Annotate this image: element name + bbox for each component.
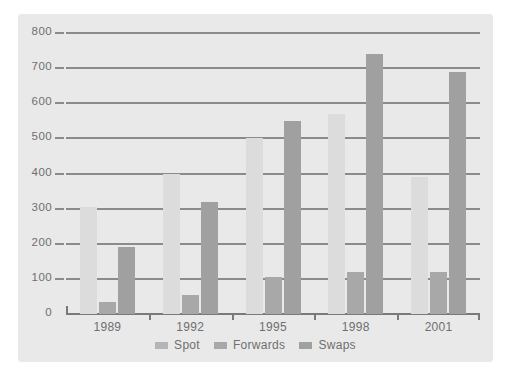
chart-legend: SpotForwardsSwaps [0, 338, 511, 352]
y-tick-mark [55, 102, 64, 104]
bar-swaps-1992 [201, 202, 218, 314]
legend-swatch-swaps [299, 342, 312, 349]
bar-swaps-2001 [449, 72, 466, 314]
legend-item-forwards[interactable]: Forwards [214, 338, 285, 352]
y-tick-mark [55, 208, 64, 210]
legend-swatch-spot [155, 342, 168, 349]
y-tick-mark [55, 173, 64, 175]
bar-forwards-1998 [347, 272, 364, 314]
x-tick-mark [314, 314, 316, 320]
bar-spot-1992 [163, 174, 180, 315]
bar-spot-2001 [411, 177, 428, 314]
y-tick-label: 300 [8, 201, 52, 213]
y-tick-label: 400 [8, 166, 52, 178]
y-tick-mark [55, 278, 64, 280]
x-tick-label-1998: 1998 [326, 320, 386, 334]
gridline [66, 32, 480, 34]
x-tick-label-1995: 1995 [243, 320, 303, 334]
bar-spot-1989 [80, 207, 97, 314]
bar-chart: 0100200300400500600700800 19891992199519… [0, 0, 511, 375]
legend-label-swaps: Swaps [318, 338, 356, 352]
y-tick-label: 800 [8, 25, 52, 37]
chart-screenshot: 0100200300400500600700800 19891992199519… [0, 0, 511, 375]
bar-spot-1998 [328, 114, 345, 314]
gridline [66, 173, 480, 175]
y-tick-label: 100 [8, 271, 52, 283]
y-tick-label: 600 [8, 95, 52, 107]
x-tick-label-1992: 1992 [160, 320, 220, 334]
legend-item-spot[interactable]: Spot [155, 338, 200, 352]
y-axis-stub [66, 306, 68, 315]
x-tick-mark [397, 314, 399, 320]
gridline [66, 102, 480, 104]
bar-forwards-2001 [430, 272, 447, 314]
legend-label-forwards: Forwards [233, 338, 285, 352]
bar-swaps-1989 [118, 247, 135, 314]
legend-item-swaps[interactable]: Swaps [299, 338, 356, 352]
bar-swaps-1995 [284, 121, 301, 314]
x-tick-label-1989: 1989 [77, 320, 137, 334]
x-tick-mark [232, 314, 234, 320]
x-tick-mark [149, 314, 151, 320]
y-tick-label: 700 [8, 60, 52, 72]
y-tick-mark [55, 137, 64, 139]
bar-spot-1995 [246, 138, 263, 314]
x-tick-label-2001: 2001 [409, 320, 469, 334]
x-tick-mark-end [478, 314, 480, 320]
bar-forwards-1995 [265, 277, 282, 314]
y-tick-mark [55, 32, 64, 34]
y-tick-label: 0 [8, 306, 52, 318]
bar-forwards-1989 [99, 302, 116, 314]
legend-label-spot: Spot [174, 338, 200, 352]
bar-swaps-1998 [366, 54, 383, 314]
gridline [66, 67, 480, 69]
y-tick-mark [55, 67, 64, 69]
legend-swatch-forwards [214, 342, 227, 349]
gridline [66, 137, 480, 139]
y-tick-label: 500 [8, 130, 52, 142]
y-tick-label: 200 [8, 236, 52, 248]
bar-forwards-1992 [182, 295, 199, 314]
y-tick-mark [55, 243, 64, 245]
